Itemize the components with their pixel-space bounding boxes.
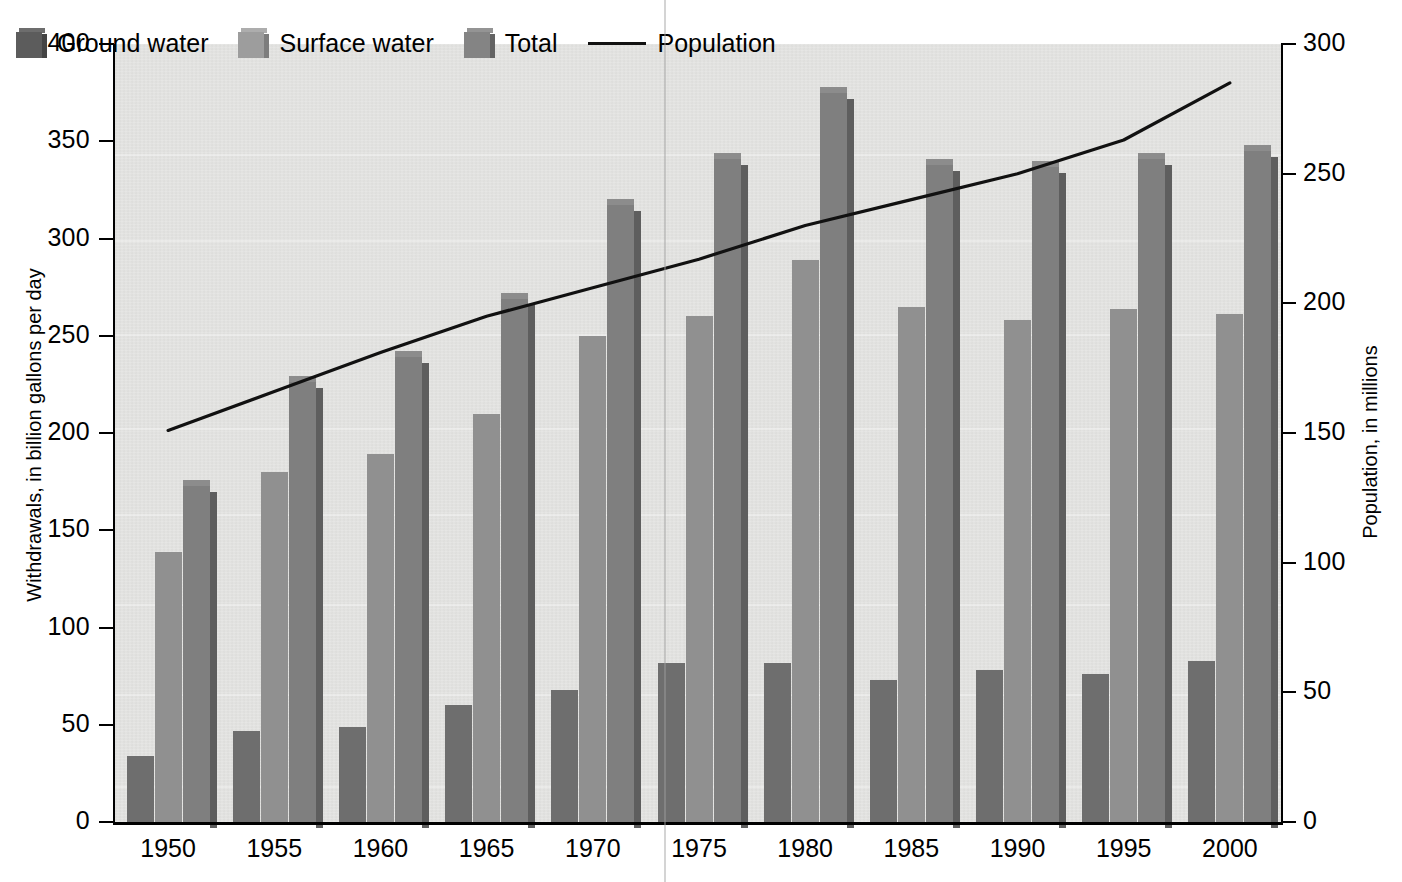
- x-axis-tick-label: 1980: [777, 836, 833, 861]
- x-axis-tick-label: 1970: [565, 836, 621, 861]
- y-axis-left-tick-label: 350: [47, 127, 90, 152]
- legend-item-surface-water: Surface water: [238, 28, 433, 58]
- y-axis-left-tick: [99, 724, 114, 726]
- chart-legend: Ground water Surface water Total Populat…: [16, 22, 776, 64]
- legend-swatch-total-icon: [464, 28, 494, 58]
- population-line-svg: [113, 44, 1281, 822]
- x-axis-tick-label: 1990: [990, 836, 1046, 861]
- y-axis-left-tick-label: 300: [47, 225, 90, 250]
- y-axis-left-tick: [99, 821, 114, 823]
- x-axis-tick-label: 1950: [140, 836, 196, 861]
- y-axis-right-tick-label: 250: [1303, 160, 1346, 185]
- y-axis-right-tick-label: 150: [1303, 419, 1346, 444]
- y-axis-left-tick-label: 150: [47, 516, 90, 541]
- population-line: [168, 83, 1230, 431]
- y-axis-right-tick: [1281, 173, 1296, 175]
- y-axis-right-line: [1281, 44, 1283, 824]
- legend-item-population: Population: [588, 31, 776, 56]
- y-axis-left-tick: [99, 627, 114, 629]
- x-axis-tick-label: 1965: [459, 836, 515, 861]
- x-axis-tick-label: 2000: [1202, 836, 1258, 861]
- y-axis-left-tick: [99, 140, 114, 142]
- y-axis-right-title: Population, in millions: [1360, 162, 1380, 722]
- y-axis-left-tick-label: 0: [76, 808, 90, 833]
- legend-label-ground-water: Ground water: [57, 31, 208, 56]
- y-axis-right-tick: [1281, 691, 1296, 693]
- y-axis-left-tick-label: 200: [47, 419, 90, 444]
- y-axis-left-tick: [99, 529, 114, 531]
- y-axis-left-tick: [99, 432, 114, 434]
- y-axis-right-tick-label: 50: [1303, 678, 1331, 703]
- y-axis-left-tick-label: 250: [47, 322, 90, 347]
- legend-swatch-ground-water-icon: [16, 28, 46, 58]
- legend-line-population-icon: [588, 42, 646, 45]
- legend-label-population: Population: [658, 31, 776, 56]
- y-axis-left-tick: [99, 335, 114, 337]
- y-axis-right-tick-label: 0: [1303, 808, 1317, 833]
- y-axis-left-tick-label: 100: [47, 614, 90, 639]
- legend-item-total: Total: [464, 28, 558, 58]
- legend-label-surface-water: Surface water: [279, 31, 433, 56]
- y-axis-left-tick: [99, 238, 114, 240]
- y-axis-right-tick: [1281, 821, 1296, 823]
- y-axis-left-line: [113, 44, 115, 824]
- legend-label-total: Total: [505, 31, 558, 56]
- x-axis-tick-label: 1985: [884, 836, 940, 861]
- legend-swatch-surface-water-icon: [238, 28, 268, 58]
- y-axis-right-tick-label: 300: [1303, 30, 1346, 55]
- y-axis-right-tick: [1281, 432, 1296, 434]
- y-axis-left-tick-label: 50: [62, 711, 90, 736]
- x-axis-tick-label: 1975: [671, 836, 727, 861]
- y-axis-left-title: Withdrawals, in billion gallons per day: [24, 155, 44, 715]
- y-axis-right-tick-label: 100: [1303, 549, 1346, 574]
- y-axis-right-tick: [1281, 43, 1296, 45]
- y-axis-right-tick: [1281, 562, 1296, 564]
- chart-figure: 050100150200250300350400 050100150200250…: [0, 0, 1402, 882]
- y-axis-right-tick: [1281, 302, 1296, 304]
- x-axis-line: [113, 822, 1283, 825]
- x-axis-tick-label: 1995: [1096, 836, 1152, 861]
- y-axis-right-tick-label: 200: [1303, 289, 1346, 314]
- legend-item-ground-water: Ground water: [16, 28, 208, 58]
- x-axis-tick-label: 1955: [246, 836, 302, 861]
- x-axis-tick-label: 1960: [353, 836, 409, 861]
- plot-area: [113, 44, 1281, 822]
